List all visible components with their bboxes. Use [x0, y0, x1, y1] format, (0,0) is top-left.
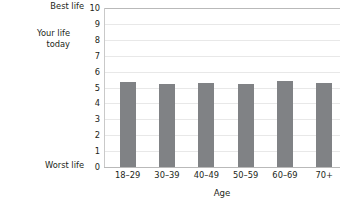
y-tick-label: 8 [80, 36, 100, 44]
plot-area [104, 8, 340, 167]
bars-layer [104, 8, 340, 167]
y-axis-title: Your life today [0, 28, 70, 49]
y-tick-label: 10 [80, 4, 100, 12]
x-tick-label: 30–39 [147, 170, 186, 180]
gridline-0 [104, 167, 340, 168]
x-axis-title: Age [104, 188, 340, 198]
bar-60–69 [277, 81, 293, 167]
x-tick-label: 18–29 [108, 170, 147, 180]
bar-18–29 [120, 82, 136, 167]
y-tick-label: 9 [80, 20, 100, 28]
y-tick-label: 1 [80, 147, 100, 155]
x-tick-label: 60–69 [265, 170, 304, 180]
y-tick-label: 7 [80, 52, 100, 60]
y-tick-label: 3 [80, 115, 100, 123]
y-tick-label: 5 [80, 84, 100, 92]
y-tick-label: 0 [80, 163, 100, 171]
bar-30–39 [159, 84, 175, 167]
x-tick-label: 50–59 [226, 170, 265, 180]
x-tick-label: 40–49 [187, 170, 226, 180]
x-tick-label: 70+ [305, 170, 344, 180]
bar-40–49 [198, 83, 214, 167]
y-tick-label: 2 [80, 131, 100, 139]
y-axis-max-label: Best life [0, 1, 84, 12]
x-axis-ticks: 18–2930–3940–4950–5960–6970+ [104, 170, 340, 182]
y-tick-label: 4 [80, 99, 100, 107]
bar-70+ [316, 83, 332, 167]
bar-50–59 [238, 84, 254, 167]
y-axis-ticks: 012345678910 [80, 8, 100, 167]
y-axis-min-label: Worst life [0, 160, 84, 171]
bar-chart: Best life Your life today Worst life 012… [0, 0, 345, 206]
y-tick-label: 6 [80, 68, 100, 76]
